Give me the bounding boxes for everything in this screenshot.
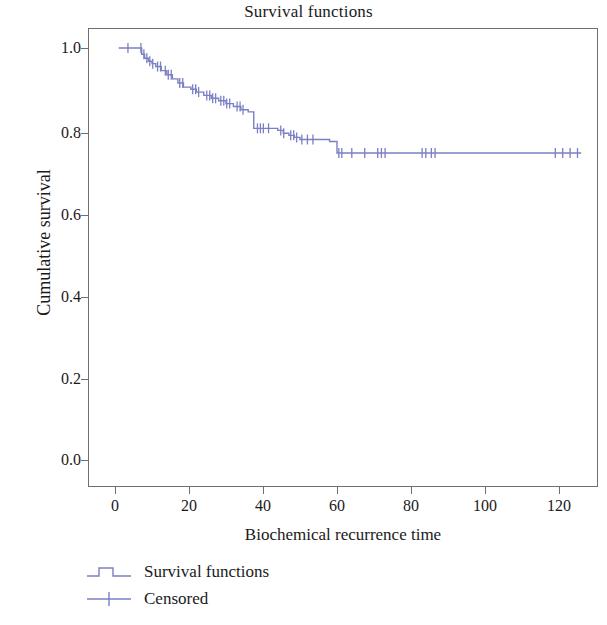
x-tick-mark — [115, 487, 116, 494]
x-tick-mark — [189, 487, 190, 494]
x-tick-label: 60 — [307, 497, 367, 515]
x-tick-label: 120 — [529, 497, 589, 515]
x-tick-label: 20 — [159, 497, 219, 515]
y-tick-mark — [81, 133, 88, 134]
y-axis-title: Cumulative survival — [34, 93, 55, 393]
x-tick-mark — [411, 487, 412, 494]
y-tick-label: 1.0 — [8, 39, 81, 57]
chart-title: Survival functions — [0, 2, 607, 22]
x-axis-title: Biochemical recurrence time — [88, 525, 598, 545]
step-line-icon — [86, 562, 132, 582]
legend-label-censored: Censored — [144, 589, 208, 609]
legend-label-survival: Survival functions — [144, 562, 269, 582]
x-tick-label: 80 — [381, 497, 441, 515]
x-tick-mark — [559, 487, 560, 494]
plus-tick-icon — [86, 589, 132, 609]
y-tick-mark — [81, 297, 88, 298]
x-tick-label: 100 — [455, 497, 515, 515]
legend: Survival functions Censored — [86, 558, 269, 612]
y-tick-mark — [81, 379, 88, 380]
legend-item-censored: Censored — [86, 585, 269, 612]
legend-item-survival: Survival functions — [86, 558, 269, 585]
x-tick-mark — [337, 487, 338, 494]
survival-step-curve — [119, 48, 582, 153]
survival-curve-plot — [88, 28, 598, 487]
y-tick-label: 0.0 — [8, 451, 81, 469]
x-tick-label: 0 — [85, 497, 145, 515]
x-tick-label: 40 — [233, 497, 293, 515]
x-tick-mark — [485, 487, 486, 494]
y-tick-mark — [81, 48, 88, 49]
y-tick-mark — [81, 215, 88, 216]
censored-tick-marks — [128, 43, 578, 158]
x-tick-mark — [263, 487, 264, 494]
y-tick-mark — [81, 460, 88, 461]
survival-chart-figure: Survival functions 1.0 0.8 0.6 0.4 0.2 0… — [0, 0, 607, 625]
chart-title-text: Survival functions — [244, 2, 373, 22]
